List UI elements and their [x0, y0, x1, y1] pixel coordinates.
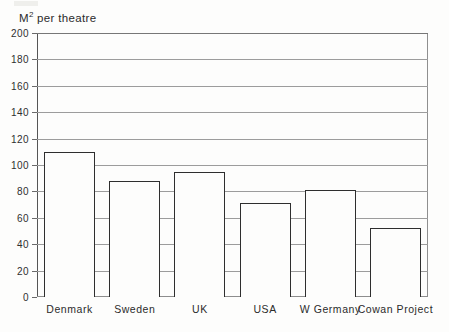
- bar-uk: [174, 172, 225, 297]
- x-axis-label-uk: UK: [192, 303, 208, 315]
- y-axis-title-superscript: 2: [29, 10, 33, 19]
- plot-area: 020406080100120140160180200: [37, 33, 428, 297]
- y-tick-mark-60: [32, 218, 37, 219]
- y-tick-mark-140: [32, 112, 37, 113]
- gridline-120: [37, 139, 428, 140]
- y-tick-label-0: 0: [23, 292, 29, 303]
- y-axis-title: M2 per theatre: [19, 10, 96, 24]
- gridline-80: [37, 191, 428, 192]
- y-tick-mark-120: [32, 139, 37, 140]
- bar-w-germany: [305, 190, 356, 297]
- y-tick-mark-0: [32, 297, 37, 298]
- scan-artifact: [14, 1, 38, 6]
- y-tick-mark-80: [32, 191, 37, 192]
- gridline-180: [37, 59, 428, 60]
- bar-usa: [240, 203, 291, 297]
- y-tick-label-120: 120: [11, 133, 29, 144]
- gridline-100: [37, 165, 428, 166]
- y-tick-mark-100: [32, 165, 37, 166]
- y-tick-mark-20: [32, 271, 37, 272]
- x-axis-label-usa: USA: [253, 303, 276, 315]
- y-tick-label-40: 40: [17, 239, 29, 250]
- gridline-200: [37, 33, 428, 34]
- y-tick-label-80: 80: [17, 186, 29, 197]
- y-tick-mark-180: [32, 59, 37, 60]
- chart-page: M2 per theatre 0204060801001201401601802…: [0, 0, 449, 332]
- y-tick-mark-160: [32, 86, 37, 87]
- y-tick-label-60: 60: [17, 212, 29, 223]
- gridline-140: [37, 112, 428, 113]
- bar-sweden: [109, 181, 160, 297]
- y-tick-label-180: 180: [11, 54, 29, 65]
- y-tick-mark-200: [32, 33, 37, 34]
- y-tick-label-140: 140: [11, 107, 29, 118]
- bar-denmark: [44, 152, 95, 297]
- y-axis-title-suffix: per theatre: [37, 12, 96, 24]
- y-tick-mark-40: [32, 244, 37, 245]
- y-tick-label-160: 160: [11, 80, 29, 91]
- x-axis-label-w-germany: W Germany: [300, 303, 361, 315]
- y-axis-title-prefix: M: [19, 12, 29, 24]
- x-axis-label-denmark: Denmark: [46, 303, 92, 315]
- y-tick-label-20: 20: [17, 265, 29, 276]
- y-tick-label-100: 100: [11, 160, 29, 171]
- gridline-160: [37, 86, 428, 87]
- gridline-60: [37, 218, 428, 219]
- y-tick-label-200: 200: [11, 28, 29, 39]
- x-axis-label-sweden: Sweden: [114, 303, 155, 315]
- bar-cowan-project: [370, 228, 421, 297]
- x-axis-label-cowan-project: Cowan Project: [358, 303, 433, 315]
